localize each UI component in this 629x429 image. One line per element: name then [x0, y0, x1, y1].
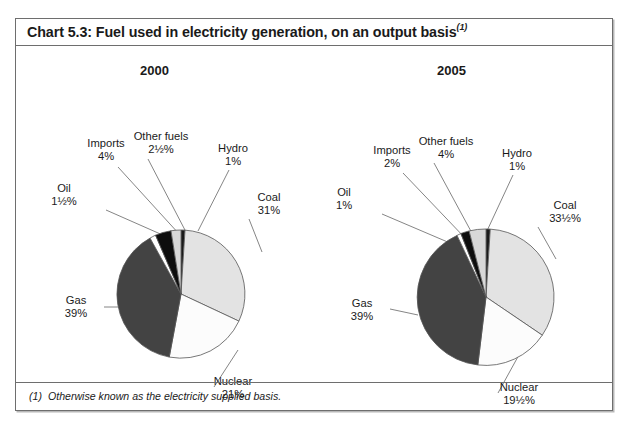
pie-label-gas: Gas 39% [52, 294, 100, 319]
pie-label-imports-name: Imports [87, 137, 124, 149]
pie-label-coal-name: Coal [553, 199, 576, 211]
pie-label-hydro-name: Hydro [218, 142, 248, 154]
pie-label-oil-name: Oil [57, 182, 71, 194]
chart-title-bar: Chart 5.3: Fuel used in electricity gene… [16, 19, 612, 46]
chart-footnote: (1)Otherwise known as the electricity su… [29, 390, 281, 402]
pie-label-gas: Gas 39% [338, 297, 386, 322]
chart-panel: Chart 5.3: Fuel used in electricity gene… [15, 18, 613, 411]
title-footnote-marker: (1) [457, 22, 468, 32]
pie-slices [117, 230, 245, 358]
pie-label-coal-name: Coal [257, 191, 280, 203]
pie-slices [417, 229, 554, 365]
pie-label-coal-value: 31% [244, 204, 294, 217]
pie-label-gas-name: Gas [352, 297, 373, 309]
pie-panel-2005: 2005 [306, 47, 605, 401]
pie-label-other-fuels: Other fuels 2½% [122, 130, 200, 155]
pie-panel-2000: 2000 [16, 47, 315, 401]
footnote-body: Otherwise known as the electricity suppl… [48, 390, 281, 402]
pie-label-oil-value: 1½% [38, 195, 90, 208]
pie-label-coal-value: 33½% [534, 212, 596, 225]
pie-label-oil-name: Oil [337, 186, 351, 198]
pie-label-gas-value: 39% [52, 307, 100, 320]
pie-label-other-fuels-value: 4% [407, 148, 485, 161]
pie-label-oil: Oil 1½% [38, 182, 90, 207]
pie-label-oil: Oil 1% [318, 186, 370, 211]
pie-label-other-fuels-value: 2½% [122, 143, 200, 156]
pie-chart-2000 [16, 47, 315, 401]
page-title: Chart 5.3: Fuel used in electricity gene… [27, 23, 467, 40]
pie-label-other-fuels: Other fuels 4% [407, 135, 485, 160]
pie-label-hydro-value: 1% [206, 155, 260, 168]
pie-label-hydro: Hydro 1% [206, 142, 260, 167]
pie-label-imports-name: Imports [373, 144, 410, 156]
pie-label-gas-name: Gas [66, 294, 87, 306]
pie-label-hydro: Hydro 1% [490, 147, 544, 172]
pie-label-hydro-value: 1% [490, 160, 544, 173]
chart-title-text: Chart 5.3: Fuel used in electricity gene… [27, 24, 457, 40]
footnote-marker: (1) [29, 390, 42, 402]
pie-label-coal: Coal 31% [244, 191, 294, 216]
pie-label-oil-value: 1% [318, 199, 370, 212]
pie-label-hydro-name: Hydro [502, 147, 532, 159]
pie-label-other-fuels-name: Other fuels [419, 135, 474, 147]
pie-label-other-fuels-name: Other fuels [134, 130, 189, 142]
footnote-bar: (1)Otherwise known as the electricity su… [16, 382, 612, 410]
pie-label-coal: Coal 33½% [534, 199, 596, 224]
pie-label-gas-value: 39% [338, 310, 386, 323]
